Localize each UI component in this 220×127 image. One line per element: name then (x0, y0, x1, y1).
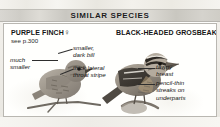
leader-line-much-smaller (32, 60, 58, 61)
female-symbol-icon: ♀ (64, 28, 70, 37)
callout-smaller-dark-bill: smaller, dark bill (73, 44, 94, 59)
similar-species-header-band: SIMILAR SPECIES (0, 9, 220, 22)
similar-species-title: SIMILAR SPECIES (71, 11, 150, 20)
callout-tawny-breast: tawny breast (156, 63, 173, 78)
callout-pencil-thin-streaks: pencil-thin streaks on underparts (156, 79, 186, 101)
leader-line-pencil-thin-streaks (138, 84, 155, 85)
species-name-black-headed-grosbeak: BLACK-HEADED GROSBEAK (116, 29, 217, 36)
paper-texture-right (217, 22, 220, 118)
callout-much-smaller: much smaller (10, 56, 30, 71)
species-comparison-panel: PURPLE FINCH♀ see p.300 (3, 23, 217, 117)
similar-species-figure: SIMILAR SPECIES PURPLE FINCH♀ see p.300 (0, 0, 220, 127)
leader-line-tawny-breast (138, 68, 155, 69)
paper-texture-bottom (0, 117, 220, 127)
species-heading-black-headed-grosbeak: BLACK-HEADED GROSBEAK♀ (116, 28, 217, 37)
species-heading-purple-finch: PURPLE FINCH♀ (11, 28, 70, 37)
species-name-purple-finch: PURPLE FINCH (11, 29, 64, 36)
